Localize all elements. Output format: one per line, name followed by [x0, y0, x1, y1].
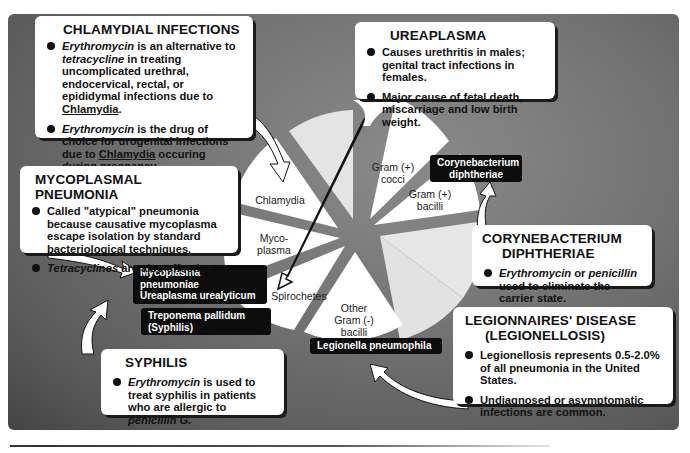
callout-chlamydial-infections: CHLAMYDIAL INFECTIONS Erythromycin is an… — [35, 16, 253, 138]
callout-title: CORYNEBACTERIUM DIPHTHERIAE — [482, 231, 642, 261]
callout-title: LEGIONNAIRES' DISEASE (LEGIONELLOSIS) — [463, 313, 663, 343]
callout-ureaplasma: UREAPLASMA Causes urethritis in males; g… — [355, 22, 555, 99]
callout-title: SYPHILIS — [111, 355, 274, 370]
callout-legionnaires-disease: LEGIONNAIRES' DISEASE (LEGIONELLOSIS) Le… — [453, 307, 673, 404]
bullet-item: Erythromycin or penicillin used to elimi… — [482, 267, 642, 305]
callout-syphilis: SYPHILIS Erythromycin is used to treat s… — [101, 349, 284, 415]
wedge-label-gram-pos-bacilli: Gram (+) bacilli — [405, 188, 455, 212]
tag-legionella: Legionella pneumophila — [310, 338, 442, 354]
wedge-label-gram-pos-cocci: Gram (+) cocci — [368, 161, 418, 185]
wedge-label-chlamydia: Chlamydia — [252, 194, 308, 206]
wedge-label-other-gram-neg-bacilli: Other Gram (-) bacilli — [329, 302, 379, 338]
page-divider-rule — [10, 445, 550, 447]
bullet-list: Legionellosis represents 0.5-2.0% of all… — [463, 349, 663, 419]
bullet-item: Called "atypical" pneumonia because caus… — [30, 205, 228, 255]
bullet-list: Erythromycin is an alternative to tetrac… — [45, 40, 243, 173]
bullet-icon — [47, 42, 55, 50]
callout-mycoplasmal-pneumonia: MYCOPLASMAL PNEUMONIA Called "atypical" … — [20, 166, 238, 253]
bullet-icon — [113, 378, 121, 386]
bullet-item: Tetracyclines are also effective. — [30, 262, 228, 275]
tag-corynebacterium: Corynebacterium diphtheriae — [430, 155, 522, 182]
wedge-label-spirochetes: Spirochetes — [266, 290, 332, 302]
bullet-icon — [367, 93, 375, 101]
bullet-list: Erythromycin or penicillin used to elimi… — [482, 267, 642, 305]
bullet-icon — [484, 269, 492, 277]
tag-treponema: Treponema pallidum (Syphilis) — [141, 308, 271, 335]
callout-title: UREAPLASMA — [365, 28, 545, 43]
bullet-item: Causes urethritis in males; genital trac… — [365, 46, 545, 84]
bullet-list: Erythromycin is used to treat syphilis i… — [111, 376, 274, 426]
callout-title: MYCOPLASMAL PNEUMONIA — [30, 172, 228, 202]
bullet-item: Legionellosis represents 0.5-2.0% of all… — [463, 349, 663, 387]
bullet-list: Causes urethritis in males; genital trac… — [365, 46, 545, 129]
callout-title: CHLAMYDIAL INFECTIONS — [45, 22, 243, 37]
bullet-icon — [465, 396, 473, 404]
bullet-icon — [32, 264, 40, 272]
syphilis-arrow — [82, 300, 108, 354]
wedge-label-mycoplasma: Myco- plasma — [252, 232, 296, 256]
bullet-icon — [47, 125, 55, 133]
bullet-icon — [367, 48, 375, 56]
bullet-item: Erythromycin is used to treat syphilis i… — [111, 376, 274, 426]
bullet-item: Undiagnosed or asymptomatic infections a… — [463, 394, 663, 419]
bullet-icon — [465, 351, 473, 359]
bullet-list: Called "atypical" pneumonia because caus… — [30, 205, 228, 275]
bullet-icon — [32, 207, 40, 215]
bullet-item: Major cause of fetal death, miscarriage … — [365, 91, 545, 129]
bullet-item: Erythromycin is an alternative to tetrac… — [45, 40, 243, 116]
callout-corynebacterium-diphtheriae: CORYNEBACTERIUM DIPHTHERIAE Erythromycin… — [472, 225, 652, 286]
